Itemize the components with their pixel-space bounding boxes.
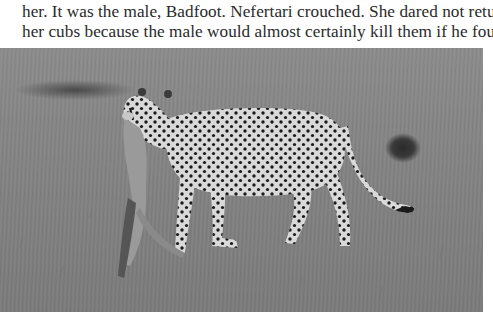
body-text: her. It was the male, Badfoot. Nefertari…	[22, 2, 484, 42]
cheetah-photo	[0, 48, 483, 312]
text-line-1: her. It was the male, Badfoot. Nefertari…	[22, 2, 484, 22]
cheetah-illustration	[0, 48, 483, 312]
text-line-2: her cubs because the male would almost c…	[22, 22, 484, 42]
